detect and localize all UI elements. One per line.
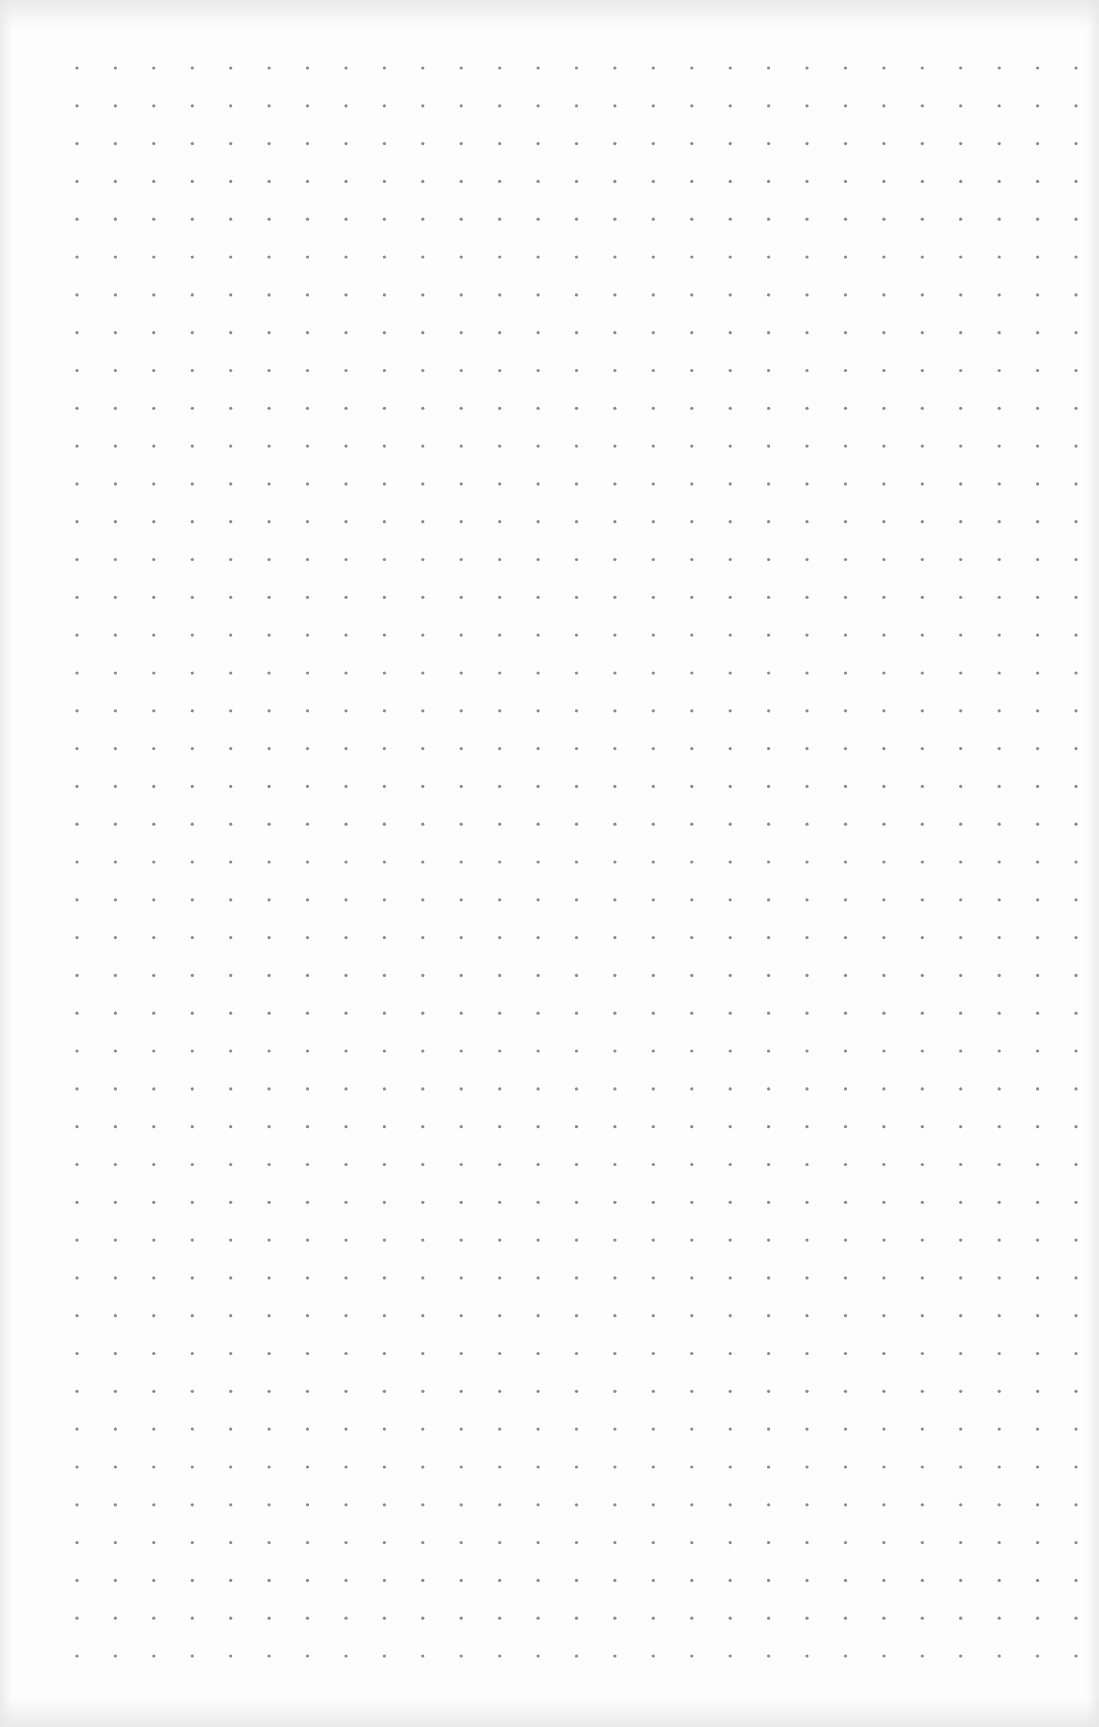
grid-dot bbox=[690, 1049, 693, 1052]
grid-dot bbox=[114, 293, 117, 296]
grid-dot bbox=[75, 293, 78, 296]
grid-dot bbox=[998, 1125, 1001, 1128]
grid-dot bbox=[805, 1579, 808, 1582]
grid-dot bbox=[613, 1314, 616, 1317]
grid-dot bbox=[844, 1617, 847, 1620]
grid-dot bbox=[882, 331, 885, 334]
grid-dot bbox=[690, 898, 693, 901]
grid-dot bbox=[152, 1503, 155, 1506]
grid-dot bbox=[344, 369, 347, 372]
grid-dot bbox=[921, 1276, 924, 1279]
grid-dot bbox=[344, 1352, 347, 1355]
grid-dot bbox=[690, 66, 693, 69]
grid-dot bbox=[1074, 860, 1077, 863]
grid-dot bbox=[690, 785, 693, 788]
grid-dot bbox=[844, 1428, 847, 1431]
grid-dot bbox=[383, 104, 386, 107]
grid-dot bbox=[383, 1012, 386, 1015]
grid-dot bbox=[844, 255, 847, 258]
grid-dot bbox=[460, 142, 463, 145]
grid-dot bbox=[805, 1465, 808, 1468]
grid-dot bbox=[537, 936, 540, 939]
grid-dot bbox=[268, 1541, 271, 1544]
grid-dot bbox=[652, 369, 655, 372]
grid-dot bbox=[805, 671, 808, 674]
grid-dot bbox=[268, 1125, 271, 1128]
grid-dot bbox=[152, 823, 155, 826]
grid-dot bbox=[383, 1163, 386, 1166]
grid-dot bbox=[421, 180, 424, 183]
grid-dot bbox=[767, 1617, 770, 1620]
grid-dot bbox=[613, 104, 616, 107]
grid-dot bbox=[1036, 1541, 1039, 1544]
grid-dot bbox=[152, 218, 155, 221]
grid-dot bbox=[114, 445, 117, 448]
grid-dot bbox=[690, 1239, 693, 1242]
grid-dot bbox=[537, 709, 540, 712]
grid-dot bbox=[921, 709, 924, 712]
grid-dot bbox=[229, 331, 232, 334]
grid-dot bbox=[1036, 1390, 1039, 1393]
grid-dot bbox=[268, 445, 271, 448]
grid-dot bbox=[652, 218, 655, 221]
grid-dot bbox=[460, 445, 463, 448]
grid-dot bbox=[383, 1503, 386, 1506]
grid-dot bbox=[1074, 1125, 1077, 1128]
grid-dot bbox=[575, 1503, 578, 1506]
grid-dot bbox=[229, 1541, 232, 1544]
grid-dot bbox=[306, 1049, 309, 1052]
grid-dot bbox=[998, 634, 1001, 637]
grid-dot bbox=[306, 1654, 309, 1657]
grid-dot bbox=[114, 1125, 117, 1128]
grid-dot bbox=[191, 66, 194, 69]
grid-dot bbox=[460, 1654, 463, 1657]
grid-dot bbox=[344, 634, 347, 637]
grid-dot bbox=[383, 936, 386, 939]
grid-dot bbox=[921, 407, 924, 410]
grid-dot bbox=[229, 1428, 232, 1431]
grid-dot bbox=[1074, 1390, 1077, 1393]
grid-dot bbox=[1074, 1012, 1077, 1015]
grid-dot bbox=[805, 180, 808, 183]
grid-dot bbox=[767, 671, 770, 674]
grid-dot bbox=[229, 520, 232, 523]
grid-dot bbox=[344, 482, 347, 485]
grid-dot bbox=[460, 1617, 463, 1620]
grid-dot bbox=[1074, 1314, 1077, 1317]
grid-dot bbox=[690, 596, 693, 599]
grid-dot bbox=[767, 785, 770, 788]
grid-dot bbox=[191, 255, 194, 258]
grid-dot bbox=[805, 747, 808, 750]
grid-dot bbox=[537, 255, 540, 258]
grid-dot bbox=[998, 407, 1001, 410]
grid-dot bbox=[1036, 1087, 1039, 1090]
grid-dot bbox=[191, 785, 194, 788]
grid-dot bbox=[1074, 1654, 1077, 1657]
grid-dot bbox=[383, 407, 386, 410]
grid-dot bbox=[729, 369, 732, 372]
grid-dot bbox=[767, 293, 770, 296]
grid-dot bbox=[460, 407, 463, 410]
grid-dot bbox=[959, 255, 962, 258]
grid-dot bbox=[1036, 1579, 1039, 1582]
grid-dot bbox=[959, 1579, 962, 1582]
grid-dot bbox=[1074, 747, 1077, 750]
grid-dot bbox=[575, 558, 578, 561]
grid-dot bbox=[229, 634, 232, 637]
grid-dot bbox=[344, 1314, 347, 1317]
grid-dot bbox=[959, 1276, 962, 1279]
grid-dot bbox=[921, 785, 924, 788]
grid-dot bbox=[959, 482, 962, 485]
grid-dot bbox=[844, 482, 847, 485]
grid-dot bbox=[75, 860, 78, 863]
grid-dot bbox=[152, 1125, 155, 1128]
grid-dot bbox=[75, 1125, 78, 1128]
grid-dot bbox=[229, 482, 232, 485]
grid-dot bbox=[498, 293, 501, 296]
grid-dot bbox=[421, 1390, 424, 1393]
grid-dot bbox=[114, 1654, 117, 1657]
grid-dot bbox=[690, 1390, 693, 1393]
grid-dot bbox=[268, 747, 271, 750]
grid-dot bbox=[460, 1579, 463, 1582]
grid-dot bbox=[229, 1465, 232, 1468]
